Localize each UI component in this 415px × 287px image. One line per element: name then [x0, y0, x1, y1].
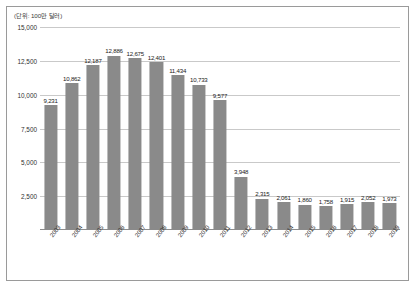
bar-value-label: 11,434: [169, 67, 186, 74]
bar-value-label: 10,862: [63, 75, 80, 82]
bar-slot[interactable]: 1,758: [315, 27, 336, 230]
bar-value-label: 1,758: [319, 198, 333, 205]
bar-slot[interactable]: 2,052: [358, 27, 379, 230]
y-tick-label: 7,500: [21, 125, 37, 132]
bar-value-label: 1,860: [298, 196, 312, 203]
bar-value-label: 9,231: [43, 97, 57, 104]
bar-slot[interactable]: 12,187: [82, 27, 103, 230]
bar-value-label: 12,675: [127, 50, 144, 57]
bar-series: 9,23110,86212,18712,88612,67512,40111,43…: [40, 27, 400, 230]
bar-value-label: 2,052: [361, 194, 375, 201]
bar-value-label: 9,577: [213, 92, 227, 99]
bar[interactable]: [65, 83, 78, 230]
bar[interactable]: [213, 100, 226, 230]
bar-slot[interactable]: 2,315: [252, 27, 273, 230]
bar[interactable]: [192, 85, 205, 230]
y-tick-label: 10,000: [17, 91, 37, 98]
y-tick-label: 15,000: [17, 24, 37, 31]
bar[interactable]: [44, 105, 57, 230]
bar-value-label: 12,401: [148, 54, 165, 61]
bar-slot[interactable]: 2,061: [273, 27, 294, 230]
bar-value-label: 2,061: [276, 194, 290, 201]
bar-slot[interactable]: 12,675: [125, 27, 146, 230]
chart-figure: (단위: 100만 달러) 2,5005,0007,50010,00012,50…: [0, 0, 415, 287]
bar-value-label: 12,886: [105, 47, 122, 54]
bar[interactable]: [129, 58, 142, 230]
bar-slot[interactable]: 1,860: [294, 27, 315, 230]
bar-slot[interactable]: 9,231: [40, 27, 61, 230]
x-axis-labels: 2003200420052006200720082009201020112012…: [40, 232, 400, 274]
bar-slot[interactable]: 11,434: [167, 27, 188, 230]
bar[interactable]: [108, 56, 121, 230]
y-tick-label: 12,500: [17, 57, 37, 64]
y-axis-labels: 2,5005,0007,50010,00012,50015,000: [8, 27, 37, 230]
bar[interactable]: [171, 75, 184, 230]
bar-value-label: 3,948: [234, 168, 248, 175]
bar-value-label: 10,733: [190, 76, 207, 83]
unit-label: (단위: 100만 달러): [14, 11, 62, 20]
bar-slot[interactable]: 3,948: [231, 27, 252, 230]
bar[interactable]: [235, 177, 248, 230]
bar-value-label: 1,973: [382, 195, 396, 202]
y-tick-label: 5,000: [21, 159, 37, 166]
bar-slot[interactable]: 12,886: [104, 27, 125, 230]
bar-value-label: 12,187: [84, 57, 101, 64]
bar-value-label: 2,315: [255, 190, 269, 197]
bar-slot[interactable]: 12,401: [146, 27, 167, 230]
bar-value-label: 1,915: [340, 196, 354, 203]
bar-slot[interactable]: 10,862: [61, 27, 82, 230]
bar[interactable]: [150, 62, 163, 230]
bar-slot[interactable]: 1,915: [336, 27, 357, 230]
bar-slot[interactable]: 1,973: [379, 27, 400, 230]
bar-slot[interactable]: 9,577: [209, 27, 230, 230]
bar-slot[interactable]: 10,733: [188, 27, 209, 230]
bar[interactable]: [86, 65, 99, 230]
y-tick-label: 2,500: [21, 193, 37, 200]
